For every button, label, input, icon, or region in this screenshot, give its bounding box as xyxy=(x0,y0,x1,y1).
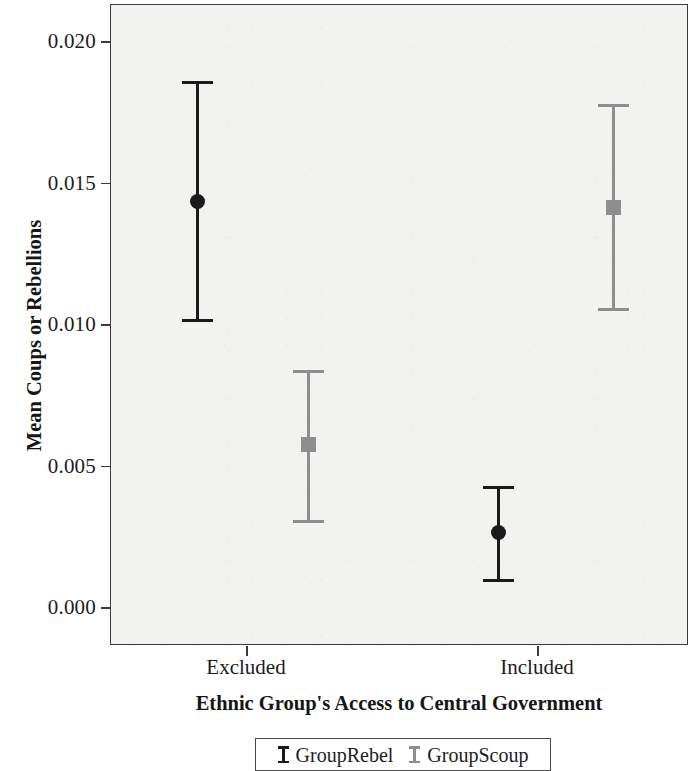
key-lk-cap-bot xyxy=(278,761,289,764)
error-bar-key-icon xyxy=(409,745,420,764)
chart-legend: GroupRebelGroupScoup xyxy=(255,738,551,771)
legend-entry: GroupRebel xyxy=(278,745,394,765)
y-tick-mark xyxy=(101,41,110,43)
data-point-marker xyxy=(301,437,316,452)
key-lk-cap-bot xyxy=(409,761,420,764)
legend-label: GroupRebel xyxy=(296,745,394,765)
error-bar-cap-lower xyxy=(598,308,629,311)
legend-label: GroupScoup xyxy=(427,745,528,765)
y-axis-title: Mean Coups or Rebellions xyxy=(23,206,46,466)
legend-entry: GroupScoup xyxy=(409,745,528,765)
error-bar-key-icon xyxy=(278,745,289,764)
data-point-marker xyxy=(606,200,621,215)
error-bar-cap-lower xyxy=(483,579,514,582)
y-tick-mark xyxy=(101,466,110,468)
y-tick-label: 0.000 xyxy=(48,597,96,618)
x-tick-label: Included xyxy=(437,655,637,679)
error-bar-cap-upper xyxy=(293,370,324,373)
data-point-marker xyxy=(190,194,205,209)
error-bar-cap-upper xyxy=(598,104,629,107)
errorbar-chart-figure: Mean Coups or Rebellions 0.0000.0050.010… xyxy=(0,0,697,771)
error-bar-cap-upper xyxy=(483,486,514,489)
y-tick-mark xyxy=(101,183,110,185)
error-bar-cap-upper xyxy=(182,81,213,84)
x-tick-label: Excluded xyxy=(146,655,346,679)
y-tick-label: 0.010 xyxy=(48,314,96,335)
y-tick-mark xyxy=(101,607,110,609)
plot-panel xyxy=(110,4,688,645)
x-axis-title: Ethnic Group's Access to Central Governm… xyxy=(110,692,688,715)
y-tick-mark xyxy=(101,324,110,326)
error-bar-cap-lower xyxy=(182,319,213,322)
y-tick-label: 0.015 xyxy=(48,173,96,194)
data-point-marker xyxy=(491,525,506,540)
error-bar-cap-lower xyxy=(293,520,324,523)
y-tick-label: 0.005 xyxy=(48,456,96,477)
y-tick-label: 0.020 xyxy=(48,31,96,52)
